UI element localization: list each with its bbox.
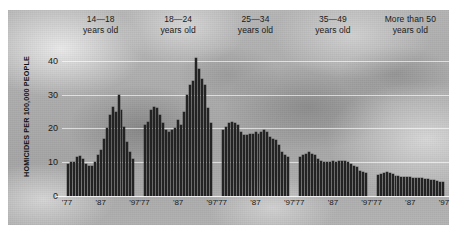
panel-header-4: 35—49years old [294,14,371,44]
x-axis-group-5: '77'87'97 [372,198,449,214]
bar [150,110,152,196]
bar [70,162,72,196]
bar-group-5 [372,44,449,196]
bar [168,132,170,196]
bar [383,173,385,196]
x-axis-tick-77: '77 [217,198,227,207]
bar [323,162,325,196]
panel-header-row: 14—18years old18—24years old25—34years o… [62,14,449,44]
bar [320,161,322,196]
bar [400,177,402,196]
bar [106,128,108,196]
bar [249,134,251,196]
x-axis-tick-87: '87 [250,198,260,207]
bar [115,112,117,196]
bar [341,161,343,196]
panel-header-units: years old [294,25,371,36]
bar [281,152,283,196]
bar [403,177,405,196]
x-axis-tick-97: '97 [361,198,371,207]
bar [269,137,271,196]
bar [344,161,346,196]
x-axis-baseline [56,196,449,197]
bar [174,128,176,196]
bar [255,132,257,196]
panel-header-age-range: 35—49 [294,14,371,25]
bar [73,162,75,196]
bar [91,166,93,196]
y-axis-tick-labels: 010203040 [32,44,58,204]
bar [302,155,304,196]
bar [430,180,432,196]
bar [112,107,114,197]
panel-header-units: years old [62,25,139,36]
bar [365,173,367,196]
bar [353,166,355,196]
bar-group-2 [139,44,216,196]
bar [210,123,212,196]
bar [195,58,197,196]
bar [123,127,125,196]
bar [177,120,179,196]
bar [275,140,277,196]
bar [326,162,328,196]
bar [386,172,388,196]
bar [129,152,131,196]
bar [240,132,242,196]
bar [335,162,337,196]
bar [121,110,123,196]
bar [162,123,164,196]
x-axis-tick-87: '87 [95,198,105,207]
bar [222,130,224,196]
bar [332,161,334,196]
bar [287,157,289,196]
bar [305,154,307,196]
bar [144,125,146,196]
bar [243,135,245,196]
bar [389,173,391,196]
x-axis-tick-77: '77 [294,198,304,207]
bar [88,166,90,196]
bar [180,125,182,196]
y-axis-tick-20: 20 [32,123,58,133]
panel-header-units: years old [139,25,216,36]
bar [395,176,397,196]
bar [329,162,331,196]
bar [156,108,158,196]
x-axis-group-3: '77'87'97 [217,198,294,214]
bar [439,182,441,196]
bar-group-4 [294,44,371,196]
bar [397,176,399,196]
bar [165,130,167,196]
x-axis-tick-87: '87 [173,198,183,207]
bar [356,167,358,196]
bar [409,177,411,196]
bar [311,154,313,196]
panel-header-2: 18—24years old [139,14,216,44]
bar [67,164,69,196]
bar [76,157,78,196]
x-axis-group-4: '77'87'97 [294,198,371,214]
x-axis-tick-97: '97 [284,198,294,207]
bar [153,107,155,197]
bar [82,159,84,196]
bar [418,178,420,196]
bar [377,175,379,196]
bar [362,172,364,196]
bar [278,145,280,196]
bar [189,85,191,196]
x-axis-tick-97: '97 [207,198,217,207]
bar [192,81,194,196]
bar [338,161,340,196]
bar [258,134,260,196]
bar [109,115,111,196]
y-axis-tick-0: 0 [32,191,58,201]
bar [204,85,206,196]
bar-group-container [62,44,449,196]
bar [260,132,262,196]
plot-area [62,44,449,196]
bar [359,171,361,196]
bar [79,156,81,196]
bar [433,180,435,196]
bar [299,157,301,196]
